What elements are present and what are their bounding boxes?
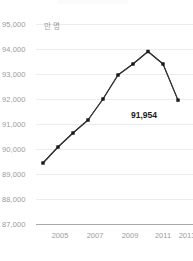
data-point-2005 [56,145,59,148]
chart-container: 95,000 94,000 93,000 92,000 91,000 90,00… [0,0,193,261]
data-point-2007 [86,118,89,121]
data-point-2013 [176,98,179,101]
data-point-2012 [161,62,164,65]
data-point-2009 [116,73,119,76]
series-markers [41,50,179,165]
series-polyline-main [43,52,178,164]
series-polyline [43,52,178,164]
data-point-2010 [131,62,134,65]
plot-area: 95,000 94,000 93,000 92,000 91,000 90,00… [0,0,193,261]
data-point-2004 [41,161,44,164]
data-label-last-value: 91,954 [131,110,157,120]
x-tick-label-2013: 2013 [172,231,193,240]
data-point-2008 [101,97,104,100]
x-tick-label-2009: 2009 [115,231,145,240]
data-point-2006 [71,131,74,134]
data-point-2011 [146,50,149,53]
series-line-chart [0,0,193,261]
x-tick-label-2007: 2007 [80,231,110,240]
x-tick-label-2005: 2005 [45,231,75,240]
